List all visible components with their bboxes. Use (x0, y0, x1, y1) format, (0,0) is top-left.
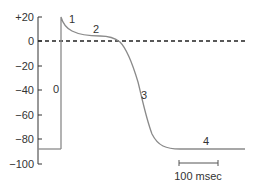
phase-label-2: 2 (93, 23, 99, 35)
phase-label-4: 4 (203, 135, 209, 147)
y-tick-label: −40 (15, 84, 34, 96)
action-potential-chart: +20 0 −20 −40 −60 −80 −100 0 1 2 3 4 10 (0, 0, 254, 189)
scale-bar (179, 160, 218, 166)
y-tick-label: −20 (15, 60, 34, 72)
y-tick-label: −60 (15, 109, 34, 121)
phase-label-1: 1 (69, 13, 75, 25)
y-tick-label: 0 (28, 35, 34, 47)
phase-label-0: 0 (53, 83, 59, 95)
phase-label-3: 3 (141, 89, 147, 101)
y-ticks (38, 17, 42, 164)
y-tick-label: +20 (15, 11, 34, 23)
y-tick-labels: +20 0 −20 −40 −60 −80 −100 (9, 11, 34, 170)
scale-bar-label: 100 msec (174, 170, 222, 182)
y-tick-label: −100 (9, 158, 34, 170)
y-tick-label: −80 (15, 133, 34, 145)
action-potential-trace (61, 17, 245, 149)
